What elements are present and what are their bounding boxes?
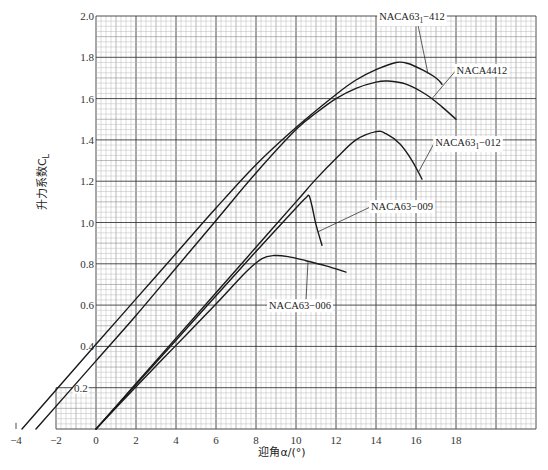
y-tick-label: 1.2 bbox=[80, 175, 94, 187]
x-tick-label: 0 bbox=[93, 434, 99, 446]
leader-line bbox=[418, 25, 428, 74]
x-tick-label: −4 bbox=[10, 434, 22, 446]
y-axis-title-subscript: L bbox=[42, 153, 51, 158]
curve-label-main: NACA63−009 bbox=[371, 201, 433, 212]
y-tick-label: 0.6 bbox=[80, 299, 94, 311]
y-tick-label: 1.0 bbox=[80, 217, 94, 229]
leader-line bbox=[306, 262, 308, 300]
annotation: NACA63−006 bbox=[267, 299, 333, 312]
y-axis-title: 升力系数CL bbox=[36, 153, 51, 210]
x-tick-label: 12 bbox=[331, 434, 342, 446]
x-tick-label: 8 bbox=[253, 434, 259, 446]
curve-label-main: NACA4412 bbox=[457, 65, 508, 76]
x-tick-label: 16 bbox=[411, 434, 423, 446]
x-tick-label: 18 bbox=[451, 434, 463, 446]
curve-label: NACA63−006 bbox=[269, 300, 331, 311]
curve-label-main: NACA63 bbox=[379, 11, 419, 22]
annotation: NACA4412 bbox=[455, 64, 510, 77]
y-tick-label: 0.4 bbox=[80, 340, 94, 352]
y-axis-title-main: 升力系数C bbox=[36, 158, 49, 210]
y-tick-label: 1.6 bbox=[80, 93, 94, 105]
curve-annotations: NACA631−412NACA4412NACA631−012NACA63−009… bbox=[267, 10, 509, 312]
x-tick-label: −2 bbox=[50, 434, 62, 446]
annotation: NACA631−012 bbox=[433, 136, 503, 152]
curve-label: NACA4412 bbox=[457, 65, 508, 76]
y-tick-label: 1.8 bbox=[80, 51, 94, 63]
x-tick-label: 2 bbox=[133, 434, 139, 446]
lift-coefficient-chart: 0.20.40.60.81.01.21.41.61.82.0 −4−202468… bbox=[0, 0, 548, 470]
y-tick-label: 2.0 bbox=[80, 10, 94, 22]
curve-label: NACA63−009 bbox=[371, 201, 433, 212]
y-tick-label: 0.8 bbox=[80, 258, 94, 270]
curve-label-tail: −012 bbox=[479, 137, 501, 148]
y-axis: 0.20.40.60.81.01.21.41.61.82.0 bbox=[73, 10, 95, 394]
annotation: NACA63−009 bbox=[369, 200, 435, 213]
annotation: NACA631−412 bbox=[377, 10, 447, 26]
curve-label-main: NACA63−006 bbox=[269, 300, 331, 311]
leader-line bbox=[432, 71, 456, 99]
x-tick-label: 14 bbox=[371, 434, 383, 446]
x-axis-title: 迎角α/(°) bbox=[258, 446, 305, 459]
y-tick-label: 1.4 bbox=[80, 134, 94, 146]
grid bbox=[16, 16, 536, 429]
curve-label-tail: −412 bbox=[423, 11, 445, 22]
x-tick-label: 4 bbox=[173, 434, 179, 446]
curve-label-main: NACA63 bbox=[435, 137, 475, 148]
y-axis-title-group: 升力系数CL bbox=[36, 153, 51, 210]
x-tick-label: 6 bbox=[213, 434, 219, 446]
x-tick-label: 10 bbox=[291, 434, 303, 446]
x-axis: −4−2024681012141618 bbox=[10, 434, 462, 446]
